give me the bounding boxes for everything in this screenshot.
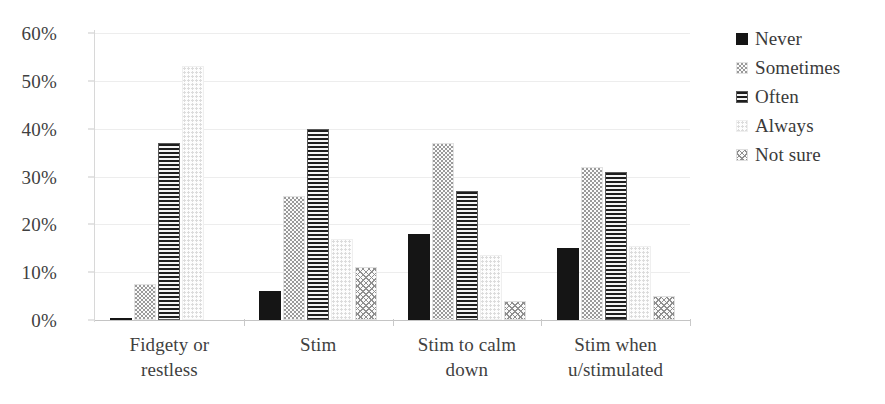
bar-sometimes <box>432 143 454 320</box>
bar-never <box>259 291 281 320</box>
bar-never <box>408 234 430 320</box>
y-tick-label: 40% <box>22 119 57 138</box>
bar-always <box>182 66 204 320</box>
legend-swatch-sometimes-icon <box>736 62 748 74</box>
legend-item-never[interactable]: Never <box>736 24 885 53</box>
bar-not-sure <box>653 296 675 320</box>
legend-swatch-not-sure-icon <box>736 149 748 161</box>
bar-often <box>605 172 627 320</box>
y-tick-label: 50% <box>22 71 57 90</box>
category-tick <box>690 319 691 326</box>
bar-often <box>158 143 180 320</box>
grouped-bar-chart: 0%10%20%30%40%50%60% Fidgety or restless… <box>0 0 885 404</box>
legend-swatch-never-icon <box>736 33 748 45</box>
y-tick-label: 0% <box>31 311 57 330</box>
chart-legend: NeverSometimesOftenAlwaysNot sure <box>736 24 885 169</box>
x-axis-category-label: Stim <box>244 332 393 357</box>
x-axis-category-label: Fidgety or restless <box>95 332 244 382</box>
plot-area <box>95 33 690 320</box>
category-tick <box>393 319 394 326</box>
legend-label: Always <box>755 116 814 135</box>
legend-swatch-always-icon <box>736 120 748 132</box>
legend-swatch-often-icon <box>736 91 748 103</box>
bar-sometimes <box>283 196 305 320</box>
bar-group <box>393 33 542 320</box>
legend-label: Sometimes <box>755 58 840 77</box>
bar-group <box>541 33 690 320</box>
category-tick <box>244 319 245 326</box>
bar-always <box>480 255 502 320</box>
bar-always <box>629 246 651 320</box>
x-axis-category-label: Stim to calm down <box>393 332 542 382</box>
y-axis: 0%10%20%30%40%50%60% <box>0 0 95 404</box>
bar-group <box>95 33 244 320</box>
bar-often <box>456 191 478 320</box>
bar-sometimes <box>134 284 156 320</box>
legend-item-sometimes[interactable]: Sometimes <box>736 53 885 82</box>
bar-group <box>244 33 393 320</box>
legend-label: Often <box>755 87 799 106</box>
legend-label: Not sure <box>755 145 821 164</box>
y-tick-label: 20% <box>22 215 57 234</box>
bar-never <box>557 248 579 320</box>
bar-never <box>110 318 132 320</box>
bar-not-sure <box>504 301 526 320</box>
legend-label: Never <box>755 29 802 48</box>
category-tick <box>541 319 542 326</box>
bar-not-sure <box>355 267 377 320</box>
bar-sometimes <box>581 167 603 320</box>
y-tick-label: 30% <box>22 167 57 186</box>
legend-item-often[interactable]: Often <box>736 82 885 111</box>
legend-item-not-sure[interactable]: Not sure <box>736 140 885 169</box>
y-tick-label: 10% <box>22 263 57 282</box>
bar-always <box>331 239 353 320</box>
y-tick-label: 60% <box>22 24 57 43</box>
bar-often <box>307 129 329 320</box>
x-axis-category-label: Stim when u/stimulated <box>541 332 690 382</box>
x-axis-labels: Fidgety or restlessStimStim to calm down… <box>95 332 690 402</box>
legend-item-always[interactable]: Always <box>736 111 885 140</box>
